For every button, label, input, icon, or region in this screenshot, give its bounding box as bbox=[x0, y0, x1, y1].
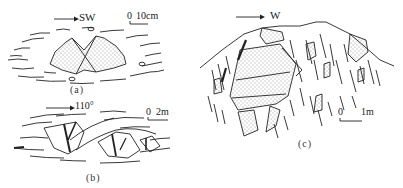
foliation-lines bbox=[14, 111, 170, 163]
panel-a-sketch bbox=[8, 17, 164, 84]
panel-c-caption: (c) bbox=[298, 139, 312, 149]
small-clast bbox=[266, 106, 280, 132]
panel-b-scale-zero: 0 bbox=[146, 107, 151, 117]
small-clast bbox=[324, 62, 330, 78]
boudin-block bbox=[238, 110, 258, 136]
small-clast bbox=[358, 68, 364, 82]
boudin-block bbox=[230, 44, 296, 110]
boudin-block bbox=[348, 34, 368, 62]
small-clast bbox=[69, 77, 75, 81]
small-clast bbox=[214, 78, 222, 94]
panel-a-scale-label: 10cm bbox=[136, 11, 158, 21]
panel-c-sketch bbox=[200, 15, 394, 139]
panel-b-scale-label: 2m bbox=[156, 107, 169, 117]
boudin-block bbox=[50, 36, 126, 74]
panel-b-caption: (b) bbox=[86, 173, 101, 183]
small-clast bbox=[314, 94, 322, 112]
boudin-block bbox=[260, 28, 284, 44]
scale-bar bbox=[148, 117, 168, 120]
panel-c-direction-label: W bbox=[270, 10, 280, 21]
scale-bar bbox=[340, 118, 362, 121]
boudin-block bbox=[98, 132, 140, 158]
scale-bar bbox=[130, 21, 148, 24]
small-clast bbox=[306, 42, 316, 60]
panel-c-scale-zero: 0 bbox=[338, 107, 343, 117]
panel-c-scale-label: 1m bbox=[361, 107, 374, 117]
panel-a-direction-label: SW bbox=[79, 12, 96, 23]
panel-b-direction-label: 110° bbox=[75, 101, 94, 111]
panel-a-caption: (a) bbox=[70, 85, 84, 95]
panel-a-scale-zero: 0 bbox=[127, 11, 132, 21]
geology-sketch-canvas bbox=[0, 0, 403, 188]
small-clast bbox=[139, 62, 145, 66]
